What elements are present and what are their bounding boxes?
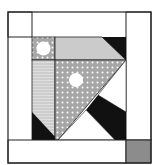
piece-7-circle [37, 42, 51, 56]
piece-2-right [126, 12, 151, 140]
quilt-block-diagram [0, 0, 157, 165]
piece-10 [126, 140, 151, 163]
piece-2-bottom [8, 140, 126, 163]
piece-6-circle [69, 73, 83, 87]
piece-1 [8, 12, 32, 37]
